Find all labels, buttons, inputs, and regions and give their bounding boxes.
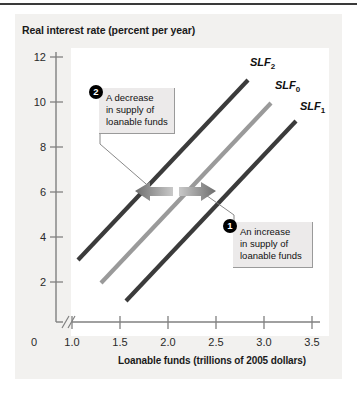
figure-page: Real interest rate (percent per year) 12… (0, 0, 357, 397)
x-tick-label-3-5: 3.5 (295, 336, 329, 348)
callout-increase-line-3: loanable funds (240, 250, 306, 262)
callout-increase-line-1: An increase (240, 226, 306, 238)
figure-panel (15, 14, 342, 379)
page-top-rule (0, 3, 357, 5)
callout-decrease: A decrease in supply of loanable funds (99, 88, 175, 134)
y-tick-label-6: 6 (22, 186, 46, 198)
y-tick-label-12: 12 (22, 51, 46, 63)
x-tick-label-3-0: 3.0 (247, 336, 281, 348)
x-tick-label-1-5: 1.5 (103, 336, 137, 348)
y-tick-label-10: 10 (22, 96, 46, 108)
y-tick-label-2: 2 (22, 276, 46, 288)
y-tick-label-8: 8 (22, 141, 46, 153)
curve-label-slf2-sub: 2 (271, 62, 275, 71)
curve-label-slf0: SLF0 (275, 79, 300, 94)
curve-label-slf1-text: SLF (300, 100, 321, 112)
curve-label-slf0-text: SLF (275, 79, 296, 91)
curve-label-slf0-sub: 0 (296, 85, 300, 94)
callout-decrease-badge: 2 (89, 85, 103, 99)
axis-origin-label: 0 (24, 336, 44, 348)
x-tick-label-2-0: 2.0 (151, 336, 185, 348)
callout-decrease-line-3: loanable funds (106, 116, 168, 128)
callout-decrease-line-2: in supply of (106, 104, 168, 116)
curve-label-slf1-sub: 1 (321, 106, 325, 115)
chart-title: Real interest rate (percent per year) (22, 24, 195, 36)
callout-decrease-line-1: A decrease (106, 92, 168, 104)
x-tick-label-1-0: 1.0 (55, 336, 89, 348)
curve-label-slf1: SLF1 (300, 100, 325, 115)
curve-label-slf2-text: SLF (250, 56, 271, 68)
callout-increase-line-2: in supply of (240, 238, 306, 250)
y-tick-label-4: 4 (22, 231, 46, 243)
callout-increase-badge: 1 (223, 219, 237, 233)
x-tick-label-2-5: 2.5 (199, 336, 233, 348)
curve-label-slf2: SLF2 (250, 56, 275, 71)
callout-increase: An increase in supply of loanable funds (233, 222, 313, 268)
x-axis-label: Loanable funds (trillions of 2005 dollar… (118, 355, 306, 366)
